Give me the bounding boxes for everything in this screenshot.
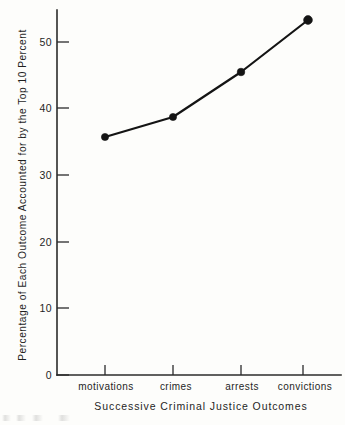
data-point-markers [101, 16, 312, 141]
x-tick-label-arrests: arrests [225, 381, 259, 392]
y-tick-label-0: 0 [46, 369, 52, 381]
y-tick-label-40: 40 [40, 102, 52, 114]
x-tick-label-convictions: convictions [278, 381, 332, 392]
x-axis-title: Successive Criminal Justice Outcomes [94, 400, 307, 412]
data-series-line [105, 20, 308, 137]
x-tick-label-motivations: motivations [78, 381, 134, 392]
y-tick-label-50: 50 [40, 36, 52, 48]
chart-figure: 50 40 30 20 10 0 motivations crimes arre… [0, 0, 345, 425]
y-tick-label-20: 20 [40, 236, 52, 248]
data-point-crimes [169, 113, 176, 120]
y-tick-label-30: 30 [40, 169, 52, 181]
x-axis-ticks [105, 365, 303, 375]
data-point-arrests [237, 68, 245, 76]
x-axis-tick-labels: motivations crimes arrests convictions [78, 381, 332, 392]
y-axis-ticks [57, 42, 69, 375]
y-tick-label-10: 10 [40, 302, 52, 314]
data-point-convictions [304, 16, 313, 25]
x-tick-label-crimes: crimes [160, 381, 192, 392]
y-axis-title: Percentage of Each Outcome Accounted for… [17, 29, 28, 361]
data-point-motivations [101, 133, 108, 140]
line-chart-canvas: 50 40 30 20 10 0 motivations crimes arre… [0, 0, 345, 425]
y-axis-tick-labels: 50 40 30 20 10 0 [40, 36, 52, 381]
